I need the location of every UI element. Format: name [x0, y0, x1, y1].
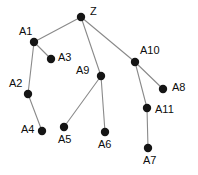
- graph-node-label-A9: A9: [76, 65, 89, 76]
- graph-node-A4[interactable]: [38, 127, 46, 135]
- graph-node-label-A7: A7: [143, 155, 156, 166]
- graph-node-A5[interactable]: [60, 123, 68, 131]
- graph-node-A1[interactable]: [30, 38, 38, 46]
- graph-node-label-A1: A1: [19, 26, 32, 37]
- graph-node-label-Z: Z: [90, 6, 97, 17]
- graph-edge-A9-A5: [64, 76, 101, 127]
- graph-node-A7[interactable]: [144, 144, 152, 152]
- graph-node-A8[interactable]: [159, 85, 167, 93]
- graph-node-label-A8: A8: [172, 82, 185, 93]
- graph-edge-A10-A11: [135, 62, 147, 108]
- graph-node-label-A3: A3: [58, 52, 71, 63]
- graph-node-label-A6: A6: [98, 139, 111, 150]
- graph-node-A2[interactable]: [24, 90, 32, 98]
- graph-node-A6[interactable]: [101, 128, 109, 136]
- graph-node-label-A4: A4: [21, 124, 34, 135]
- edges-layer: [28, 17, 163, 148]
- nodes-layer: [24, 13, 167, 152]
- graph-node-label-A2: A2: [9, 78, 22, 89]
- graph-edge-A9-A6: [101, 76, 105, 132]
- graph-node-A3[interactable]: [47, 55, 55, 63]
- graph-node-A11[interactable]: [143, 104, 151, 112]
- graph-edge-A11-A7: [147, 108, 148, 148]
- graph-node-A9[interactable]: [97, 72, 105, 80]
- graph-node-Z[interactable]: [77, 13, 85, 21]
- graph-edge-A10-A8: [135, 62, 163, 89]
- graph-node-label-A10: A10: [140, 45, 160, 56]
- graph-node-A10[interactable]: [131, 58, 139, 66]
- graph-node-label-A11: A11: [155, 104, 174, 115]
- graph-node-label-A5: A5: [58, 134, 71, 145]
- graph-edge-A1-A2: [28, 42, 34, 94]
- graph-edge-Z-A1: [34, 17, 81, 42]
- node-link-graph-figure: ZA1A3A2A4A9A5A6A10A8A11A7: [0, 0, 198, 175]
